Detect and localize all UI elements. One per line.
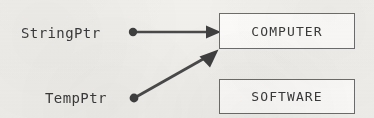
pointer-diagram-canvas: StringPtr TempPtr COMPUTER SOFTWARE [0,0,374,118]
box-software: SOFTWARE [219,79,355,114]
connector-line-tempptr [136,58,205,97]
connector-tempptr-to-computer [130,50,219,103]
pointer-label-tempptr: TempPtr [45,91,107,105]
box-label-software: SOFTWARE [251,90,322,103]
pointer-dot-tempptr [130,94,139,103]
connector-stringptr-to-computer [129,26,221,39]
box-computer: COMPUTER [219,13,355,49]
box-label-computer: COMPUTER [251,25,322,38]
arrowhead-tempptr [200,50,219,68]
pointer-dot-stringptr [129,28,137,36]
pointer-label-stringptr: StringPtr [21,26,100,40]
